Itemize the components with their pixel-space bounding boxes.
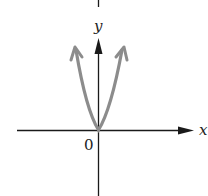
y-axis-arrowhead xyxy=(95,38,103,54)
origin-label: 0 xyxy=(84,136,94,154)
graph-canvas: y x 0 xyxy=(0,0,208,196)
x-axis-arrowhead xyxy=(178,127,194,135)
parabola-diagram: y x 0 xyxy=(0,0,208,196)
y-axis-label: y xyxy=(93,17,103,35)
x-axis-label: x xyxy=(199,121,208,139)
